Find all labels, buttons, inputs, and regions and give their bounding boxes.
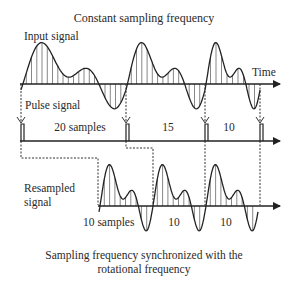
resampled-signal-label: Resampled (24, 182, 75, 195)
pulse-signal-label: Pulse signal (25, 99, 80, 112)
diagram-title: Constant sampling frequency (0, 12, 288, 25)
resampled-segment-label: 10 (214, 216, 238, 229)
input-signal-label: Input signal (24, 30, 79, 43)
resampled-segment-label: 10 samples (83, 216, 134, 229)
resampled-signal-label-2: signal (24, 196, 51, 209)
caption-line-1: Sampling frequency synchronized with the (0, 249, 288, 262)
pulse-segment-label: 20 samples (40, 121, 120, 134)
caption-line-2: rotational frequency (0, 263, 288, 276)
pulse-segment-label: 10 (214, 121, 244, 134)
resampled-segment-label: 10 (162, 216, 186, 229)
time-axis-label: Time (252, 66, 276, 79)
pulse-segment-label: 15 (150, 121, 186, 134)
